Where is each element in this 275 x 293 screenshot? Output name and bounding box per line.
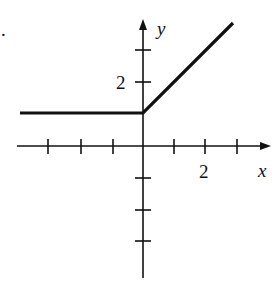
y-tick-label-2: 2 — [116, 72, 126, 93]
y-axis-arrow-icon — [139, 19, 147, 30]
function-graph-line — [20, 23, 233, 113]
x-tick-label-2: 2 — [199, 161, 209, 182]
y-axis-label: y — [155, 18, 166, 39]
x-axis-label: x — [257, 160, 267, 181]
corner-mark: . — [1, 19, 6, 40]
graph-figure: y x 2 2 . — [0, 0, 275, 293]
x-axis-arrow-icon — [260, 142, 271, 150]
